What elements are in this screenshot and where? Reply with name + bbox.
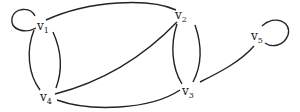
edge-v2-v3-right xyxy=(193,25,200,82)
vertex-v4: v4 xyxy=(39,90,52,106)
svg-text:v5: v5 xyxy=(250,29,263,45)
edge-v3-v5 xyxy=(200,46,254,82)
vertex-v2: v2 xyxy=(174,8,187,24)
vertex-v1: v1 xyxy=(36,19,49,35)
edge-v1-loop xyxy=(12,9,36,30)
edge-v1-v2 xyxy=(46,3,176,20)
svg-text:v4: v4 xyxy=(39,90,52,106)
edge-v5-loop xyxy=(262,20,289,45)
edge-v2-v4 xyxy=(55,22,177,94)
svg-text:v3: v3 xyxy=(181,84,194,100)
svg-text:v2: v2 xyxy=(174,8,187,24)
svg-text:v1: v1 xyxy=(36,19,49,35)
edge-v1-v4-right xyxy=(53,32,60,88)
vertex-v5: v5 xyxy=(250,29,263,45)
edge-v1-v4-left xyxy=(29,30,40,90)
graph-diagram: v1 v2 v3 v4 v5 xyxy=(0,0,300,112)
edge-v4-v3 xyxy=(57,90,180,107)
edge-v2-v3-left xyxy=(173,24,182,84)
vertex-v3: v3 xyxy=(181,84,194,100)
